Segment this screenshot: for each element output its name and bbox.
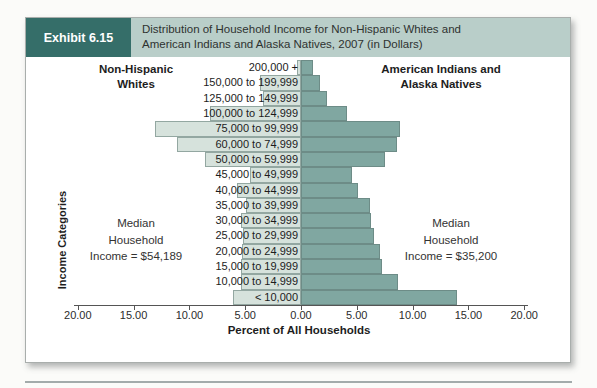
x-axis-title: Percent of All Households bbox=[26, 324, 572, 336]
exhibit-header: Exhibit 6.15 Distribution of Household I… bbox=[26, 18, 570, 57]
income-row: 35,000 to 39,999 bbox=[26, 198, 572, 213]
exhibit-title-line-2: American Indians and Alaska Natives, 200… bbox=[142, 37, 564, 52]
bar-american-indians-alaska-natives bbox=[301, 137, 397, 152]
income-row: 100,000 to 124,999 bbox=[26, 106, 572, 121]
income-category-label: 25,000 to 29,999 bbox=[215, 228, 298, 243]
exhibit-title-line-1: Distribution of Household Income for Non… bbox=[142, 22, 564, 37]
income-row: 45,000 to 49,999 bbox=[26, 167, 572, 182]
income-category-label: 125,000 to 149,999 bbox=[203, 91, 298, 106]
x-axis-tick-label: 15.00 bbox=[109, 309, 159, 321]
income-row: 10,000 to 14,999 bbox=[26, 274, 572, 289]
income-row: 125,000 to 149,999 bbox=[26, 91, 572, 106]
exhibit-card: Exhibit 6.15 Distribution of Household I… bbox=[25, 17, 571, 363]
income-row: 30,000 to 34,999 bbox=[26, 213, 572, 228]
x-axis-tick-label: 20.00 bbox=[499, 309, 549, 321]
income-category-label: 40,000 to 44,999 bbox=[215, 183, 298, 198]
bar-american-indians-alaska-natives bbox=[301, 274, 398, 289]
bar-american-indians-alaska-natives bbox=[301, 259, 382, 274]
income-category-label: 45,000 to 49,999 bbox=[215, 167, 298, 182]
plot-rows: 200,000 +150,000 to 199,999125,000 to 14… bbox=[26, 60, 572, 305]
x-axis-tick-label: 10.00 bbox=[164, 309, 214, 321]
bar-american-indians-alaska-natives bbox=[301, 91, 327, 106]
bar-american-indians-alaska-natives bbox=[301, 152, 385, 167]
income-category-label: 30,000 to 34,999 bbox=[215, 213, 298, 228]
income-row: 150,000 to 199,999 bbox=[26, 75, 572, 90]
x-axis-tick-label: 20.00 bbox=[53, 309, 103, 321]
bar-american-indians-alaska-natives bbox=[301, 183, 358, 198]
bar-american-indians-alaska-natives bbox=[301, 228, 374, 243]
x-axis-tick-label: 15.00 bbox=[443, 309, 493, 321]
x-axis-tick-label: 0.00 bbox=[276, 309, 326, 321]
income-row: 15,000 to 19,999 bbox=[26, 259, 572, 274]
exhibit-title: Distribution of Household Income for Non… bbox=[131, 18, 570, 57]
income-row: < 10,000 bbox=[26, 290, 572, 305]
bar-american-indians-alaska-natives bbox=[301, 290, 457, 305]
zero-axis-line bbox=[301, 60, 302, 305]
income-category-label: 100,000 to 124,999 bbox=[203, 106, 298, 121]
income-row: 200,000 + bbox=[26, 60, 572, 75]
exhibit-number-badge: Exhibit 6.15 bbox=[26, 18, 131, 57]
x-axis-tick-label: 5.00 bbox=[220, 309, 270, 321]
income-row: 20,000 to 24,999 bbox=[26, 244, 572, 259]
x-axis-tick-label: 5.00 bbox=[332, 309, 382, 321]
income-category-label: 15,000 to 19,999 bbox=[215, 259, 298, 274]
income-category-label: 150,000 to 199,999 bbox=[203, 75, 298, 90]
income-row: 40,000 to 44,999 bbox=[26, 183, 572, 198]
bottom-rule-divider bbox=[25, 381, 572, 383]
bar-american-indians-alaska-natives bbox=[301, 60, 313, 75]
income-row: 50,000 to 59,999 bbox=[26, 152, 572, 167]
exhibit-number: Exhibit 6.15 bbox=[44, 31, 113, 45]
bar-american-indians-alaska-natives bbox=[301, 167, 352, 182]
bar-american-indians-alaska-natives bbox=[301, 106, 347, 121]
income-row: 25,000 to 29,999 bbox=[26, 228, 572, 243]
bar-american-indians-alaska-natives bbox=[301, 244, 380, 259]
bar-american-indians-alaska-natives bbox=[301, 121, 400, 136]
income-row: 75,000 to 99,999 bbox=[26, 121, 572, 136]
income-row: 60,000 to 74,999 bbox=[26, 137, 572, 152]
bar-american-indians-alaska-natives bbox=[301, 75, 320, 90]
pyramid-chart: Income Categories Non-Hispanic Whites Am… bbox=[26, 57, 570, 362]
bar-american-indians-alaska-natives bbox=[301, 213, 371, 228]
income-category-label: 50,000 to 59,999 bbox=[215, 152, 298, 167]
income-category-label: 35,000 to 39,999 bbox=[215, 198, 298, 213]
x-axis-tick-label: 10.00 bbox=[388, 309, 438, 321]
income-category-label: < 10,000 bbox=[255, 290, 298, 305]
income-category-label: 20,000 to 24,999 bbox=[215, 244, 298, 259]
income-category-label: 10,000 to 14,999 bbox=[215, 274, 298, 289]
income-category-label: 75,000 to 99,999 bbox=[215, 121, 298, 136]
bar-american-indians-alaska-natives bbox=[301, 198, 370, 213]
income-category-label: 200,000 + bbox=[249, 60, 298, 75]
income-category-label: 60,000 to 74,999 bbox=[215, 137, 298, 152]
